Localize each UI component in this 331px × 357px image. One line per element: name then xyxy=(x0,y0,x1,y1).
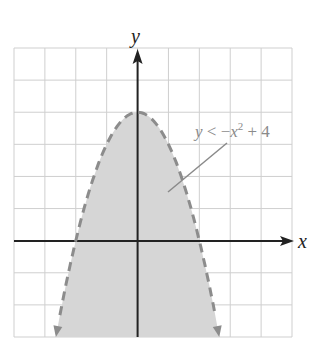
inequality-graph: y < −x2 + 4 x y xyxy=(0,0,331,357)
inequality-label: y < −x2 + 4 xyxy=(193,120,270,141)
x-axis-label: x xyxy=(297,230,307,252)
y-axis-label: y xyxy=(129,25,140,48)
